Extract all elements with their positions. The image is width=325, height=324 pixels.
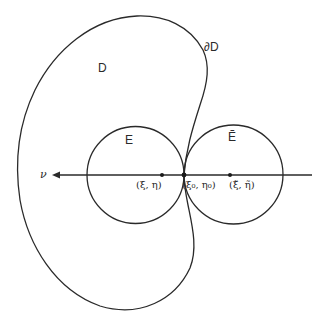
point-tangent [182, 173, 187, 178]
domain-boundary [17, 16, 207, 310]
label-point-center-E: (ξ, η) [136, 180, 162, 190]
label-boundary: ∂D [204, 41, 219, 53]
arrow-head-icon [52, 172, 60, 179]
label-region-D: D [98, 62, 107, 74]
label-point-center-E-tilde: (ξ̃, η̃) [229, 180, 255, 190]
diagram-canvas [0, 0, 325, 324]
label-disk-E-tilde: Ẽ [228, 131, 236, 143]
label-point-tangent: (ξ₀, η₀) [182, 180, 216, 190]
point-center-E [160, 173, 164, 177]
label-disk-E: E [125, 134, 133, 146]
point-center-E-tilde [228, 173, 232, 177]
label-normal: ν [40, 169, 47, 180]
